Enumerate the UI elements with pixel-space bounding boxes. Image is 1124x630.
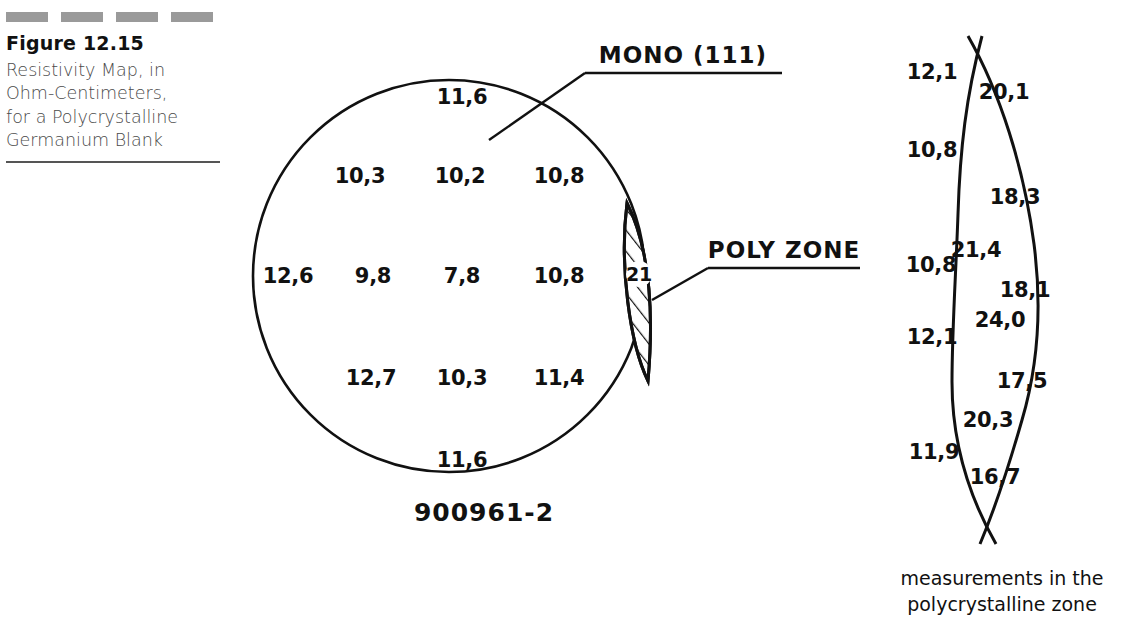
wafer-reading: 12,6 (263, 264, 314, 288)
wafer-reading: 10,8 (534, 164, 585, 188)
poly-detail-reading: 16,7 (970, 465, 1021, 489)
poly-detail-reading: 12,1 (907, 60, 958, 84)
figure-page: Figure 12.15 Resistivity Map, in Ohm-Cen… (0, 0, 1124, 630)
wafer-reading: 10,8 (534, 264, 585, 288)
poly-zone-label: POLY ZONE (708, 237, 860, 263)
wafer-reading: 10,2 (435, 164, 486, 188)
poly-detail-reading: 20,3 (963, 408, 1014, 432)
poly-detail-reading: 20,1 (979, 80, 1030, 104)
zone-caption-line-2: polycrystalline zone (907, 593, 1097, 615)
poly-detail-reading: 17,5 (997, 369, 1048, 393)
wafer-reading: 11,4 (534, 366, 585, 390)
wafer-reading: 11,6 (437, 448, 488, 472)
wafer-reading: 9,8 (355, 264, 391, 288)
wafer-reading: 10,3 (437, 366, 488, 390)
poly-detail-reading: 21,4 (951, 238, 1002, 262)
poly-zone-detail-caption: measurements in the polycrystalline zone (900, 566, 1103, 617)
figure-drawing (0, 0, 1124, 630)
poly-leader-line (652, 268, 860, 300)
wafer-reading: 7,8 (444, 264, 480, 288)
poly-detail-reading: 18,3 (990, 185, 1041, 209)
poly-detail-reading: 12,1 (907, 325, 958, 349)
mono-label: MONO (111) (599, 42, 767, 68)
wafer-reading: 10,3 (335, 164, 386, 188)
poly-detail-reading: 18,1 (1000, 278, 1051, 302)
mono-leader-line (489, 73, 782, 140)
poly-detail-reading: 10,8 (906, 253, 957, 277)
zone-caption-line-1: measurements in the (900, 567, 1103, 589)
wafer-reading: 11,6 (437, 85, 488, 109)
poly-detail-reading: 24,0 (975, 308, 1026, 332)
poly-detail-reading: 11,9 (909, 440, 960, 464)
poly-zone-value: 21 (626, 263, 652, 285)
wafer-reading: 12,7 (346, 366, 397, 390)
poly-detail-reading: 10,8 (907, 138, 958, 162)
wafer-serial-number: 900961-2 (414, 498, 554, 527)
